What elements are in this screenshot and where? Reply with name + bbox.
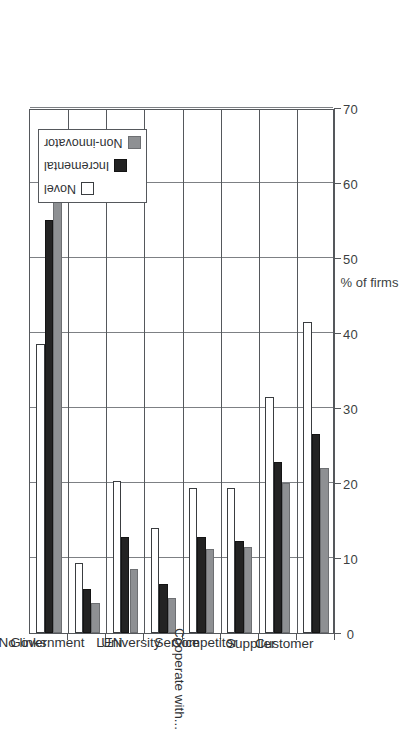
gridline (30, 407, 333, 408)
bar-incremental (312, 434, 320, 633)
category-axis-label: Government (10, 636, 84, 651)
bar-incremental (197, 537, 205, 633)
bar-novel (189, 488, 197, 633)
bar-novel (265, 397, 273, 633)
bar-incremental (159, 584, 167, 633)
bar-noninnov (91, 603, 99, 633)
bar-noninnov (130, 569, 138, 633)
category-separator (297, 110, 298, 633)
category-axis: No linksGovernmentLENUniversityServiceCo… (29, 633, 335, 634)
value-axis-title: % of firms (300, 275, 403, 290)
category-axis-label: Customer (255, 636, 314, 651)
legend-label: Non-innovator (44, 136, 123, 150)
bar-noninnov (244, 547, 252, 633)
legend-label: Novel (44, 182, 76, 196)
value-axis: 010203040506070% of firms (334, 109, 335, 634)
value-axis-tick-label: 0 (331, 627, 371, 642)
bar-incremental (274, 462, 282, 633)
legend-swatch-incremental (114, 159, 127, 172)
value-axis-tick-label: 40 (331, 327, 371, 342)
bar-novel (303, 322, 311, 633)
value-axis-tick-label: 70 (331, 102, 371, 117)
gridline (30, 107, 333, 108)
chart-legend: NovelIncrementalNon-innovator (38, 129, 147, 203)
bar-incremental (83, 590, 91, 634)
bar-noninnov (206, 549, 214, 633)
category-axis-title: Cooperate with... (172, 628, 187, 730)
legend-entry: Novel (44, 182, 94, 196)
bar-novel (227, 488, 235, 633)
bar-noninnov (282, 483, 290, 633)
bar-novel (36, 344, 44, 633)
bar-novel (113, 481, 121, 633)
value-axis-tick-label: 10 (331, 552, 371, 567)
legend-entry: Non-innovator (44, 136, 141, 150)
value-axis-tick-label: 50 (331, 252, 371, 267)
gridline (30, 257, 333, 258)
legend-swatch-noninnov (128, 136, 141, 149)
bar-novel (75, 563, 83, 633)
category-axis-label: University (102, 636, 161, 651)
category-separator (221, 110, 222, 633)
bar-noninnov (53, 172, 61, 633)
value-axis-tick-label: 20 (331, 477, 371, 492)
gridline (30, 332, 333, 333)
bar-incremental (235, 542, 243, 634)
category-separator (183, 110, 184, 633)
legend-entry: Incremental (44, 159, 127, 173)
bar-incremental (45, 221, 53, 634)
bar-incremental (121, 537, 129, 633)
legend-swatch-novel (81, 182, 94, 195)
bar-novel (151, 528, 159, 633)
category-separator (259, 110, 260, 633)
bar-noninnov (320, 468, 328, 633)
value-axis-tick-label: 30 (331, 402, 371, 417)
legend-label: Incremental (44, 159, 109, 173)
value-axis-tick-label: 60 (331, 177, 371, 192)
